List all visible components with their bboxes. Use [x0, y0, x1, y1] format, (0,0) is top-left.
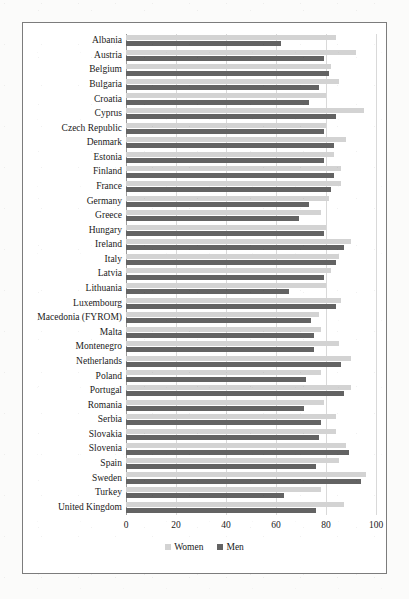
legend-swatch-icon	[165, 544, 171, 550]
category-label: Greece	[0, 211, 122, 221]
bar-women	[126, 137, 346, 142]
bar-men	[126, 420, 321, 425]
category-label: Estonia	[0, 153, 122, 163]
bar-men	[126, 377, 306, 382]
legend-item[interactable]: Women	[165, 542, 203, 552]
x-tick-label: 40	[221, 520, 231, 530]
bar-men	[126, 216, 299, 221]
bar-men	[126, 479, 361, 484]
bar-women	[126, 312, 319, 317]
bar-row: Lithuania	[23, 282, 386, 297]
category-label: Malta	[0, 328, 122, 338]
bar-men	[126, 347, 314, 352]
bar-men	[126, 275, 324, 280]
bar-women	[126, 443, 346, 448]
category-label: Austria	[0, 51, 122, 61]
bar-women	[126, 79, 339, 84]
bar-men	[126, 187, 331, 192]
x-tick-label: 20	[171, 520, 181, 530]
bar-row: Finland	[23, 165, 386, 180]
category-label: Romania	[0, 401, 122, 411]
bar-row: Austria	[23, 49, 386, 64]
bar-rows-group: AlbaniaAustriaBelgiumBulgariaCroatiaCypr…	[23, 34, 386, 515]
bar-men	[126, 114, 336, 119]
bar-women	[126, 225, 326, 230]
x-tick-label: 0	[124, 520, 129, 530]
bar-men	[126, 304, 336, 309]
bar-women	[126, 487, 321, 492]
bar-row: Croatia	[23, 92, 386, 107]
bar-men	[126, 71, 329, 76]
category-label: Bulgaria	[0, 80, 122, 90]
bar-men	[126, 464, 316, 469]
category-label: Portugal	[0, 386, 122, 396]
bar-women	[126, 341, 339, 346]
bar-men	[126, 289, 289, 294]
bar-row: Montenegro	[23, 340, 386, 355]
bar-men	[126, 85, 319, 90]
bar-women	[126, 196, 329, 201]
bar-row: Belgium	[23, 63, 386, 78]
bar-women	[126, 414, 336, 419]
category-label: Sweden	[0, 474, 122, 484]
bar-men	[126, 56, 324, 61]
category-label: Denmark	[0, 138, 122, 148]
category-label: Serbia	[0, 415, 122, 425]
bar-women	[126, 210, 321, 215]
bar-men	[126, 333, 314, 338]
bar-men	[126, 318, 311, 323]
bar-women	[126, 502, 344, 507]
legend-item[interactable]: Men	[217, 542, 243, 552]
bar-women	[126, 327, 321, 332]
bar-women	[126, 50, 356, 55]
bar-row: Germany	[23, 194, 386, 209]
bar-row: Portugal	[23, 384, 386, 399]
bar-women	[126, 181, 341, 186]
category-label: Finland	[0, 167, 122, 177]
category-label: Slovenia	[0, 444, 122, 454]
category-label: Latvia	[0, 269, 122, 279]
bar-men	[126, 450, 349, 455]
bar-row: Italy	[23, 253, 386, 268]
bar-row: Sweden	[23, 471, 386, 486]
category-label: Poland	[0, 372, 122, 382]
bar-men	[126, 158, 324, 163]
bar-row: Albania	[23, 34, 386, 49]
bar-women	[126, 254, 339, 259]
bar-women	[126, 429, 336, 434]
category-label: Cyprus	[0, 109, 122, 119]
bar-men	[126, 245, 344, 250]
category-label: Slovakia	[0, 430, 122, 440]
bar-men	[126, 508, 316, 513]
chart-legend: WomenMen	[23, 542, 386, 552]
plot-area: AlbaniaAustriaBelgiumBulgariaCroatiaCypr…	[23, 23, 386, 573]
bar-women	[126, 356, 351, 361]
bar-row: Netherlands	[23, 355, 386, 370]
bar-men	[126, 260, 336, 265]
bar-men	[126, 143, 334, 148]
bar-row: United Kingdom	[23, 500, 386, 515]
category-label: Montenegro	[0, 342, 122, 352]
bar-women	[126, 385, 351, 390]
bar-row: Ireland	[23, 238, 386, 253]
bar-row: Czech Republic	[23, 121, 386, 136]
bar-men	[126, 406, 304, 411]
bar-women	[126, 93, 326, 98]
category-label: France	[0, 182, 122, 192]
bar-row: Malta	[23, 326, 386, 341]
bar-women	[126, 472, 366, 477]
bar-women	[126, 268, 331, 273]
bar-row: Cyprus	[23, 107, 386, 122]
bar-women	[126, 166, 341, 171]
bar-row: Slovakia	[23, 428, 386, 443]
bar-row: Greece	[23, 209, 386, 224]
category-label: Czech Republic	[0, 124, 122, 134]
bar-row: Romania	[23, 398, 386, 413]
bar-women	[126, 400, 324, 405]
bar-row: Latvia	[23, 267, 386, 282]
bar-row: Macedonia (FYROM)	[23, 311, 386, 326]
category-label: Albania	[0, 36, 122, 46]
bar-row: Bulgaria	[23, 78, 386, 93]
bar-women	[126, 152, 334, 157]
bar-women	[126, 370, 321, 375]
